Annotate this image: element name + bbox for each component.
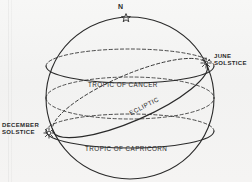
star-icon — [122, 14, 131, 22]
tropic-of-cancer-label: TROPIC OF CANCER — [88, 81, 158, 88]
diagram-canvas — [0, 0, 252, 182]
december-solstice-label: DECEMBER SOLSTICE — [2, 122, 39, 135]
celestial-sphere-diagram: N JUNE SOLSTICE DECEMBER SOLSTICE TROPIC… — [0, 0, 252, 182]
north-pole-label: N — [118, 3, 123, 11]
june-solstice-label: JUNE SOLSTICE — [214, 53, 247, 66]
tropic-of-cancer-back — [46, 49, 214, 66]
sun-icon — [44, 128, 54, 138]
tropic-of-capricorn-label: TROPIC OF CAPRICORN — [85, 145, 167, 152]
celestial-sphere-outline — [46, 17, 214, 179]
